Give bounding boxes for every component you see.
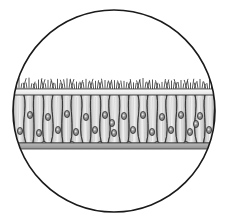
columnar-cell [138, 95, 149, 143]
cell-nucleus [45, 113, 50, 120]
cell-nucleus [193, 120, 198, 127]
nucleolus [66, 112, 68, 114]
cell-nucleus [206, 126, 211, 133]
nucleolus [113, 131, 115, 133]
cell-nucleus [187, 128, 192, 135]
nucleolus [57, 128, 59, 130]
cell-nucleus [64, 110, 69, 117]
nucleolus [75, 130, 77, 132]
nucleolus [161, 115, 163, 117]
cell-nucleus [168, 126, 173, 133]
cell-nucleus [140, 111, 145, 118]
cell-nucleus [121, 112, 126, 119]
nucleolus [189, 130, 191, 132]
epithelial-tissue-group [3, 78, 225, 149]
cell-nucleus [149, 128, 154, 135]
nucleolus [123, 114, 125, 116]
columnar-cell [24, 95, 34, 143]
cell-nucleus [130, 126, 135, 133]
nucleolus [29, 113, 31, 115]
columnar-cell [51, 95, 63, 143]
nucleolus [94, 128, 96, 130]
nucleolus [38, 131, 40, 133]
cell-nucleus [178, 111, 183, 118]
cell-nucleus [27, 111, 32, 118]
nucleolus [19, 129, 21, 131]
nucleolus [170, 128, 172, 130]
cell-nucleus [55, 126, 60, 133]
cell-nucleus [17, 127, 22, 134]
nucleolus [132, 128, 134, 130]
cell-nucleus [159, 113, 164, 120]
nucleolus [208, 128, 210, 130]
cell-nucleus [36, 129, 41, 136]
nucleolus [104, 113, 106, 115]
cell-nucleus [111, 129, 116, 136]
histology-figure [0, 0, 228, 220]
cell-nucleus [102, 111, 107, 118]
nucleolus [142, 113, 144, 115]
cell-nucleus [197, 112, 202, 119]
nucleolus [180, 113, 182, 115]
basement-membrane [4, 143, 224, 149]
histology-canvas [0, 0, 228, 220]
nucleolus [47, 115, 49, 117]
nucleolus [195, 122, 197, 124]
nucleolus [111, 121, 113, 123]
nucleolus [151, 130, 153, 132]
cell-nucleus [92, 126, 97, 133]
cell-nucleus [109, 119, 114, 126]
cell-nucleus [83, 113, 88, 120]
nucleolus [85, 115, 87, 117]
cell-nucleus [73, 128, 78, 135]
nucleolus [199, 114, 201, 116]
